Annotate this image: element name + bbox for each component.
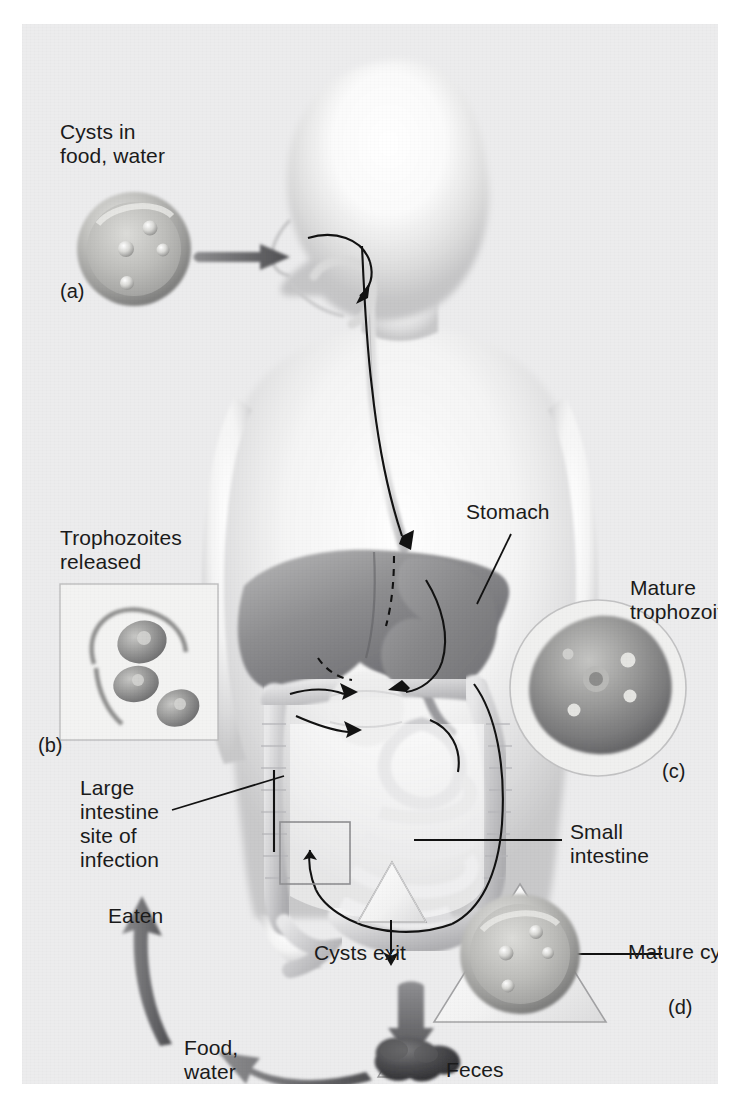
panel-label-b: (b): [38, 734, 62, 756]
panel-label-c: (c): [662, 760, 685, 782]
label-cysts-exit: Cysts exit: [314, 941, 406, 965]
label-trophozoites-released: Trophozoites released: [60, 526, 182, 574]
label-feces: Feces: [446, 1058, 504, 1082]
label-food-water: Food, water: [184, 1036, 238, 1084]
label-small-intestine: Small intestine: [570, 820, 649, 868]
panel-label-a: (a): [60, 280, 84, 302]
label-cysts-in-food-water: Cysts in food, water: [60, 120, 165, 168]
scanned-figure-page: Cysts in food, water (a) Trophozoites re…: [22, 24, 718, 1084]
figure-canvas: Cysts in food, water (a) Trophozoites re…: [0, 0, 756, 1114]
label-large-intestine: Large intestine site of infection: [80, 776, 159, 873]
mature-trophozoite-icon: [510, 600, 686, 776]
cyst-icon: [77, 192, 191, 306]
ileocecal-node-icon: [328, 671, 404, 747]
panel-label-d: (d): [668, 996, 692, 1018]
label-eaten: Eaten: [108, 904, 163, 928]
label-mature-trophozoites: Mature trophozoites: [630, 576, 718, 624]
label-mature-cysts: Mature cysts: [628, 940, 718, 964]
label-stomach: Stomach: [466, 500, 550, 524]
arrow-icon: [218, 1052, 372, 1084]
trophozoite-icon: [60, 584, 218, 740]
